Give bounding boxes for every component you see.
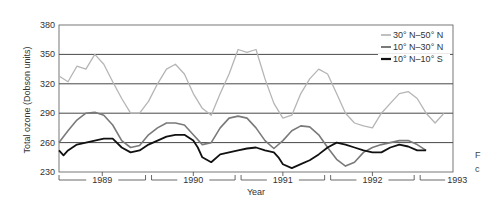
y-tick-label: 380 xyxy=(40,20,55,30)
y-axis-label: Total ozone (Dobson units) xyxy=(22,46,32,153)
year-bracket: 1989 xyxy=(59,172,146,185)
legend-item: 10° N–10° S xyxy=(378,54,450,65)
data-series xyxy=(59,50,444,169)
x-tick-label: 1989 xyxy=(92,175,112,185)
legend-label: 10° N–10° S xyxy=(393,54,443,64)
series-line xyxy=(59,135,426,168)
y-tick-label: 290 xyxy=(40,108,55,118)
y-tick-label: 320 xyxy=(40,79,55,89)
y-tick-label: 350 xyxy=(40,49,55,59)
x-tick-label: 1990 xyxy=(183,175,203,185)
legend-item: 10° N–30° N xyxy=(378,42,450,53)
edge-text-2: c xyxy=(475,164,480,174)
year-bracket: 1991 xyxy=(241,172,325,185)
legend: 30° N–50° N10° N–30° N10° N–10° S xyxy=(378,30,450,65)
x-axis-year-brackets: 19891990199119921993 xyxy=(59,172,467,185)
y-tick-label: 260 xyxy=(40,138,55,148)
x-tick-label: 1992 xyxy=(362,175,382,185)
legend-label: 10° N–30° N xyxy=(393,42,443,52)
year-bracket: 1993 xyxy=(420,175,467,185)
edge-text-1: F xyxy=(475,150,481,160)
x-tick-label: 1991 xyxy=(273,175,293,185)
gridlines xyxy=(59,54,453,142)
legend-label: 30° N–50° N xyxy=(393,30,443,40)
x-tick-label: 1993 xyxy=(447,175,467,185)
ozone-line-chart: 230260290320350380 19891990199119921993 … xyxy=(0,0,484,208)
y-tick-label: 230 xyxy=(40,167,55,177)
year-bracket: 1992 xyxy=(331,172,415,185)
legend-item: 30° N–50° N xyxy=(378,30,450,41)
x-axis-label: Year xyxy=(247,187,265,197)
year-bracket: 1990 xyxy=(152,172,236,185)
y-axis-ticks: 230260290320350380 xyxy=(40,20,55,177)
